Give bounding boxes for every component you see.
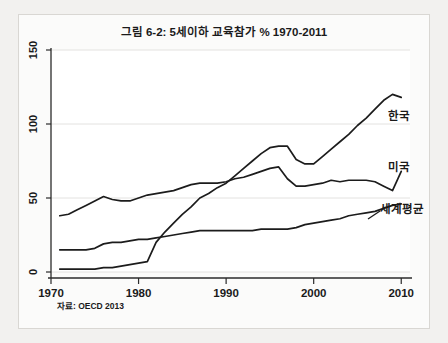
x-tick-label-2000: 2000 [301,287,327,299]
x-tick-label-1980: 1980 [126,287,152,299]
series-label-0: 한국 [388,109,410,122]
x-axis-ticks: 19701980199020002010 [38,278,414,299]
y-tick-label-0: 0 [27,269,39,275]
y-tick-label-50: 50 [27,192,39,204]
chart-title: 그림 6-2: 5세이하 교육참가 % 1970-2011 [121,25,328,38]
series-label-1: 미국 [388,160,410,173]
y-axis-ticks: 050100150 [27,41,51,275]
figure-root: 050100150 19701980199020002010 한국미국세계평균 … [0,0,448,343]
x-tick-label-1990: 1990 [213,287,239,299]
y-tick-label-100: 100 [27,115,39,133]
line-chart: 050100150 19701980199020002010 한국미국세계평균 … [0,0,448,343]
y-tick-label-150: 150 [27,41,39,59]
series-label-2: 세계평균 [380,202,424,215]
x-tick-label-1970: 1970 [38,287,64,299]
x-tick-label-2010: 2010 [388,287,414,299]
source-note: 자료: OECD 2013 [57,301,124,311]
chart-panel-background [51,50,410,272]
